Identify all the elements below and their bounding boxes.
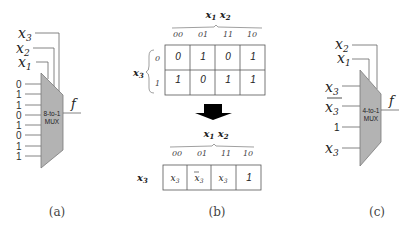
kmap-cell: 1 (200, 51, 206, 62)
kmap-cell: 1 (175, 74, 181, 85)
panel-b: x1 x2 00 01 11 10 x3 0 1 0 1 0 1 1 (132, 9, 265, 219)
svg-text:00: 00 (172, 149, 182, 158)
kmap-cell: 0 (175, 51, 181, 62)
panel-a: x3 x2 x1 0 1 1 0 1 0 1 1 8-to-1 MU (16, 25, 81, 219)
kmap-cell: 0 (225, 51, 231, 62)
caption-c: (c) (369, 205, 385, 219)
input-x3-bar: x3 (325, 99, 339, 117)
input-lines-c (342, 86, 360, 148)
svg-text:10: 10 (243, 149, 253, 158)
kmap-bottom-column-labels: 00 01 11 10 (172, 149, 253, 158)
input-x3: x3 (325, 79, 339, 97)
kmap-cell: x3 (171, 173, 180, 184)
svg-text:1: 1 (155, 79, 160, 88)
kmap-top-row-labels: 0 1 (155, 54, 160, 88)
svg-text:01: 01 (198, 30, 208, 39)
select-labels-a: x3 x2 x1 (16, 25, 32, 72)
svg-text:00: 00 (173, 30, 183, 39)
input-values-a: 0 1 1 0 1 0 1 1 (16, 79, 22, 162)
kmap-cell: 1 (250, 51, 256, 62)
input-7: 1 (16, 151, 22, 162)
svg-text:0: 0 (155, 54, 160, 63)
input-labels-c: x3 x3 1 x3 (325, 79, 342, 158)
mux-4to1-label-line1: 4-to-1 (363, 107, 380, 114)
select-labels-c: x2 x1 (335, 36, 351, 68)
mux-kmap-diagram: x3 x2 x1 0 1 1 0 1 0 1 1 8-to-1 MU (0, 0, 409, 237)
mux-8to1-label-line1: 8-to-1 (44, 110, 61, 117)
down-arrow-icon (195, 104, 232, 120)
kmap-cell: x3 (195, 173, 204, 184)
kmap-cell: 1 (250, 74, 256, 85)
input-one: 1 (334, 122, 340, 133)
kmap-top-row-header: x3 (132, 67, 144, 80)
kmap-top-row-brace (146, 50, 154, 93)
caption-a: (a) (49, 205, 66, 219)
kmap-cell: 1 (225, 74, 231, 85)
caption-b: (b) (208, 205, 225, 219)
output-label-a: f (70, 96, 78, 111)
panel-c: x2 x1 x3 x3 1 x3 4-to-1 MUX f (c) (325, 36, 399, 219)
input-x3: x3 (325, 140, 339, 158)
kmap-bottom-column-header: x1 x2 (202, 128, 228, 141)
output-label-c: f (388, 93, 396, 108)
mux-4to1-label-line2: MUX (364, 115, 379, 122)
kmap-top-column-labels: 00 01 11 10 (173, 30, 257, 39)
svg-text:10: 10 (247, 30, 257, 39)
svg-text:01: 01 (197, 149, 207, 158)
kmap-bottom-brace (170, 144, 254, 147)
kmap-top-column-header: x1 x2 (204, 9, 230, 22)
kmap-bottom-row-header: x3 (136, 172, 148, 185)
kmap-cell: 0 (200, 74, 206, 85)
kmap-cell: 1 (246, 172, 252, 183)
mux-8to1-label-line2: MUX (45, 118, 60, 125)
input-1: 1 (16, 89, 22, 100)
kmap-cell: x3 (219, 173, 228, 184)
svg-text:11: 11 (223, 30, 233, 39)
kmap-top-cells: 0 1 0 1 1 0 1 1 (175, 51, 256, 85)
kmap-top-brace (172, 25, 262, 28)
svg-text:11: 11 (221, 149, 231, 158)
input-lines-a (25, 84, 41, 156)
input-5: 0 (16, 130, 22, 141)
